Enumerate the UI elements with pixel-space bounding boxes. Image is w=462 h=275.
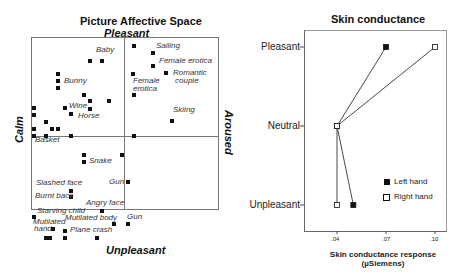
data-marker <box>335 124 340 129</box>
conductance-lines <box>0 0 462 275</box>
data-marker <box>351 203 356 208</box>
data-marker <box>384 45 389 50</box>
right-hand-line <box>337 47 435 205</box>
data-marker <box>335 203 340 208</box>
left-hand-line <box>337 47 386 205</box>
data-marker <box>433 45 438 50</box>
